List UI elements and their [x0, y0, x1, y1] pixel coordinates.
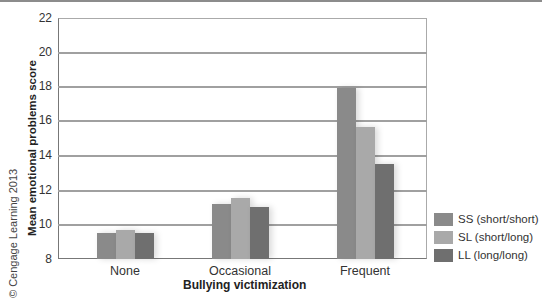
gridline-18 [58, 86, 427, 88]
gridline-20 [58, 52, 427, 54]
top-border [0, 0, 542, 2]
bar-none-ss [97, 233, 116, 259]
y-tick-20: 20 [26, 45, 52, 59]
legend-item-ss: SS (short/short) [434, 210, 539, 228]
bar-occasional-ll [250, 207, 269, 259]
y-tick-10: 10 [26, 217, 52, 231]
y-tick-8: 8 [26, 252, 52, 266]
bar-frequent-sl [356, 127, 375, 259]
x-label-none: None [110, 264, 140, 278]
legend-item-sl: SL (short/long) [434, 228, 539, 246]
y-tick-22: 22 [26, 11, 52, 25]
bar-none-ll [135, 233, 154, 259]
x-label-occasional: Occasional [209, 264, 271, 278]
bar-occasional-ss [212, 204, 231, 259]
copyright-text: © Cengage Learning 2013 [7, 169, 19, 298]
y-tick-18: 18 [26, 79, 52, 93]
y-tick-12: 12 [26, 183, 52, 197]
legend-label-sl: SL (short/long) [458, 231, 533, 243]
legend-swatch-ss [434, 213, 453, 226]
legend-label-ll: LL (long/long) [458, 249, 528, 261]
legend-item-ll: LL (long/long) [434, 246, 539, 264]
bar-frequent-ss [337, 88, 356, 259]
bar-frequent-ll [375, 164, 394, 259]
y-tick-14: 14 [26, 148, 52, 162]
x-axis-title: Bullying victimization [183, 278, 306, 292]
bar-occasional-sl [231, 198, 250, 259]
y-tick-16: 16 [26, 113, 52, 127]
x-label-frequent: Frequent [340, 264, 390, 278]
legend: SS (short/short) SL (short/long) LL (lon… [434, 210, 539, 264]
legend-swatch-sl [434, 231, 453, 244]
bar-none-sl [116, 230, 135, 259]
legend-label-ss: SS (short/short) [458, 213, 539, 225]
gridline-16 [58, 120, 427, 122]
legend-swatch-ll [434, 249, 453, 262]
